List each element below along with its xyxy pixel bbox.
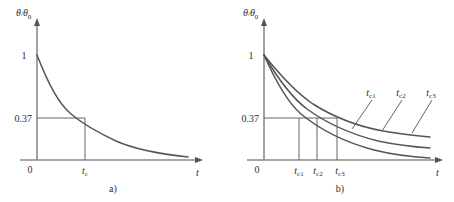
panel-b-xtick-tc2-sub: c2 (316, 170, 323, 178)
panel-b-leader-tc2 (382, 100, 402, 131)
panel-b-curve-1 (264, 55, 430, 158)
panel-b-callout-tc2: tc2 (396, 87, 406, 100)
panel-b-callout-tc3-sub: c3 (429, 92, 436, 100)
panel-b-theta-den-sub: 0 (255, 13, 259, 21)
panel-b-xtick-tc2: tc2 (313, 165, 323, 178)
panel-a-y-axis-arrowhead (34, 18, 40, 26)
panel-b-xtick-tc1: tc1 (294, 165, 304, 178)
panel-b-callout-tc3: tc3 (426, 87, 436, 100)
panel-b-ytick-037: 0.37 (242, 113, 260, 124)
panel-b-xtick-tc3-sub: c3 (338, 170, 345, 178)
panel-a: θ/θ0 t 1 0.37 0 tc a) (15, 7, 204, 195)
panel-b-x-axis-arrowhead (435, 157, 443, 163)
panel-b-ytick-1: 1 (249, 50, 254, 61)
panel-b-y-axis-arrowhead (261, 18, 267, 26)
panel-a-theta-den-sub: 0 (28, 13, 32, 21)
panel-a-y-axis-label: θ/θ0 (16, 7, 32, 21)
panel-b-leader-tc1 (352, 100, 372, 129)
panel-a-ytick-037: 0.37 (15, 113, 33, 124)
panel-b-leader-tc3 (412, 100, 432, 133)
panel-a-xtick-tc: tc (82, 165, 88, 178)
panel-b-callout-tc1: tc1 (366, 87, 376, 100)
panel-a-curve-exponential-decay (37, 55, 188, 157)
panel-b-caption: b) (336, 183, 344, 195)
figure-canvas: θ/θ0 t 1 0.37 0 tc a) (0, 0, 454, 202)
panel-a-ytick-1: 1 (22, 50, 27, 61)
panel-a-caption: a) (109, 183, 117, 195)
figure-exponential-decay-panels: θ/θ0 t 1 0.37 0 tc a) (0, 0, 454, 202)
panel-b-callout-tc1-sub: c1 (369, 92, 376, 100)
panel-b: θ/θ0 t tc1 tc2 (242, 7, 444, 195)
panel-b-xtick-tc1-sub: c1 (297, 170, 304, 178)
panel-a-xtick-tc-sub: c (85, 170, 88, 178)
panel-b-xtick-tc3: tc3 (335, 165, 345, 178)
panel-b-y-axis-label: θ/θ0 (243, 7, 259, 21)
panel-a-x-axis-label: t (196, 167, 199, 178)
panel-b-x-axis-label: t (436, 167, 439, 178)
panel-b-callout-tc2-sub: c2 (399, 92, 406, 100)
panel-a-origin-label: 0 (28, 164, 33, 175)
panel-b-origin-label: 0 (255, 164, 260, 175)
panel-a-x-axis-arrowhead (195, 157, 203, 163)
